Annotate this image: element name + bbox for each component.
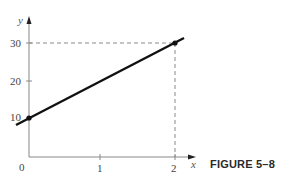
- y-axis-label: y: [17, 14, 23, 26]
- y-tick-label-30: 30: [10, 37, 22, 49]
- point-2-30: [172, 40, 177, 45]
- x-axis-label: x: [190, 158, 196, 170]
- point-0-10: [26, 115, 31, 120]
- data-line: [16, 38, 184, 125]
- y-tick-label-20: 20: [10, 75, 22, 87]
- x-tick-label-0: 0: [19, 161, 25, 173]
- y-tick-label-10: 10: [10, 111, 22, 123]
- x-tick-label-2: 2: [171, 162, 177, 174]
- x-tick-label-1: 1: [97, 162, 103, 174]
- figure-caption: FIGURE 5–8: [210, 158, 275, 170]
- y-axis-arrow-icon: [27, 16, 32, 24]
